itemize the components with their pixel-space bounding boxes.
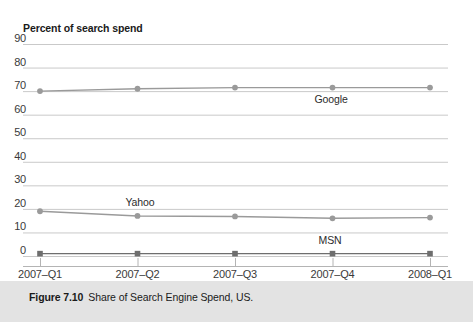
y-axis-label-40: 40: [0, 150, 26, 162]
x-axis-label-4: 2008–Q1: [390, 268, 470, 280]
x-axis-label-0: 2007–Q1: [0, 268, 80, 280]
figure-caption-label: Figure 7.10: [29, 291, 83, 303]
y-axis-label-10: 10: [0, 220, 26, 232]
y-axis-label-80: 80: [0, 56, 26, 68]
data-point-yahoo: [427, 215, 433, 221]
y-axis-label-20: 20: [0, 197, 26, 209]
series-label-msn: MSN: [319, 234, 342, 246]
data-point-google: [330, 85, 336, 91]
data-point-msn: [37, 251, 43, 257]
data-point-google: [37, 88, 43, 94]
x-axis-label-3: 2007–Q4: [293, 268, 373, 280]
data-point-msn: [232, 251, 238, 257]
x-axis-label-2: 2007–Q3: [195, 268, 275, 280]
data-point-yahoo: [37, 208, 43, 214]
data-point-google: [427, 85, 433, 91]
data-point-yahoo: [135, 213, 141, 219]
data-point-google: [135, 86, 141, 92]
series-label-google: Google: [315, 93, 348, 105]
data-point-msn: [330, 251, 336, 257]
data-point-google: [232, 85, 238, 91]
data-point-msn: [135, 251, 141, 257]
figure-caption-text: Share of Search Engine Spend, US.: [88, 291, 253, 303]
x-axis-label-1: 2007–Q2: [98, 268, 178, 280]
data-point-msn: [427, 251, 433, 257]
series-label-yahoo: Yahoo: [126, 196, 155, 208]
y-axis-label-0: 0: [0, 244, 26, 256]
data-point-yahoo: [330, 215, 336, 221]
figure-caption: Figure 7.10Share of Search Engine Spend,…: [29, 291, 253, 303]
y-axis-label-70: 70: [0, 79, 26, 91]
figure-container: Percent of search spend 0102030405060708…: [0, 0, 473, 322]
y-axis-label-90: 90: [0, 32, 26, 44]
data-point-yahoo: [232, 214, 238, 220]
y-axis-label-50: 50: [0, 126, 26, 138]
y-axis-label-60: 60: [0, 103, 26, 115]
y-axis-label-30: 30: [0, 173, 26, 185]
